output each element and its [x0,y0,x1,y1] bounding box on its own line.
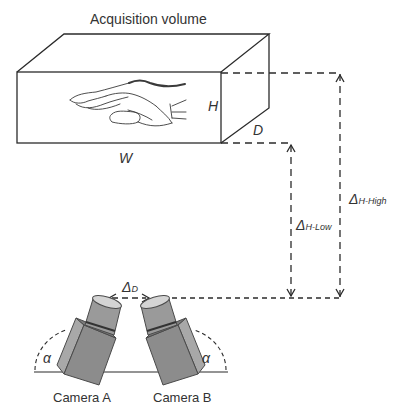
delta-h-low-line [221,143,291,297]
camera-b-icon [139,293,205,385]
camera-a-icon [57,293,123,385]
delta-d-label: ΔD [122,278,138,296]
delta-symbol: Δ [296,217,305,233]
delta-h-high-line [221,73,340,297]
diagram-title: Acquisition volume [90,11,207,27]
acquisition-volume-box [17,34,269,143]
angle-label-left: α [43,350,51,366]
delta-h-high-subscript: H-High [358,196,386,206]
box-top-face [17,34,269,72]
diagram-canvas: Acquisition volume W H D ΔH-High ΔH-Low … [0,0,405,419]
camera-a-label: Camera A [53,390,111,405]
delta-symbol: Δ [349,191,358,207]
hand-icon [70,80,186,126]
distance-lines [112,73,340,298]
delta-h-low-subscript: H-Low [305,222,331,232]
camera-b-label: Camera B [153,390,212,405]
delta-h-high-label: ΔH-High [349,190,386,208]
delta-h-low-label: ΔH-Low [296,216,331,234]
delta-d-subscript: D [131,284,138,294]
arrowheads [109,75,344,302]
box-front-face [17,72,221,143]
depth-label: D [253,122,263,138]
height-label: H [208,98,218,114]
width-label: W [119,150,132,166]
delta-symbol: Δ [122,279,131,295]
angle-label-right: α [202,350,210,366]
